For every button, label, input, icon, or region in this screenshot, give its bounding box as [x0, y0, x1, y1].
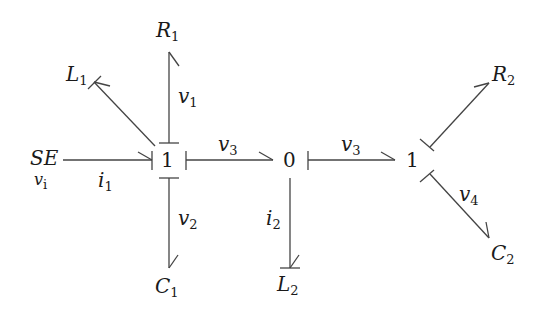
bonds-layer — [0, 0, 551, 320]
v1-main: v — [178, 84, 189, 108]
bond-j1a-to-r1 — [159, 52, 179, 143]
r1-main: R — [156, 18, 171, 42]
bond-label-v1: v1 — [178, 86, 198, 109]
bond-se-to-j1a — [63, 151, 152, 170]
element-c1: C1 — [155, 276, 179, 299]
bond-j0-to-l2 — [280, 178, 300, 268]
bond-j1b-to-c2 — [420, 170, 489, 238]
r2-main: R — [492, 62, 507, 86]
l2-sub: 2 — [290, 283, 298, 298]
element-l1: L1 — [66, 64, 88, 87]
v3a-sub: 3 — [229, 143, 237, 158]
bond-label-v2: v2 — [178, 208, 198, 231]
bond-j1a-to-c1 — [159, 178, 179, 268]
element-se: SE — [30, 148, 58, 168]
bond-label-i1: i1 — [98, 170, 113, 193]
c1-main: C — [155, 274, 170, 298]
v4-sub: 4 — [470, 193, 478, 208]
se-label: SE — [30, 146, 58, 170]
bond-label-v3-left: v3 — [218, 134, 238, 157]
r1-sub: 1 — [171, 29, 179, 44]
l1-main: L — [66, 62, 79, 86]
c2-sub: 2 — [506, 252, 514, 267]
v1-sub: 1 — [189, 95, 197, 110]
l2-main: L — [277, 272, 290, 296]
bond-label-v3-right: v3 — [341, 134, 361, 157]
junction-0: 0 — [283, 150, 296, 170]
i2-sub: 2 — [272, 217, 280, 232]
se-subsub-label: i — [43, 177, 47, 192]
element-l2: L2 — [277, 274, 299, 297]
v3a-main: v — [218, 132, 229, 156]
bond-graph-diagram: 1 0 1 SE vi R1 L1 C1 L2 R2 C2 i1 v1 v2 v… — [0, 0, 551, 320]
junction-1-right: 1 — [406, 150, 419, 170]
c1-sub: 1 — [170, 285, 178, 300]
bond-label-i2: i2 — [266, 208, 281, 231]
c2-main: C — [491, 241, 506, 265]
v3b-main: v — [341, 132, 352, 156]
v2-sub: 2 — [189, 217, 197, 232]
v2-main: v — [178, 206, 189, 230]
element-r2: R2 — [492, 64, 515, 87]
i1-sub: 1 — [104, 179, 112, 194]
bond-j1a-to-l1 — [88, 76, 155, 146]
element-se-sub: vi — [34, 172, 47, 191]
element-c2: C2 — [491, 243, 515, 266]
element-r1: R1 — [156, 20, 179, 43]
l1-sub: 1 — [79, 73, 87, 88]
v3b-sub: 3 — [352, 143, 360, 158]
junction-1-left: 1 — [161, 150, 174, 170]
bond-j1b-to-r2 — [420, 83, 489, 151]
se-sub-label: v — [34, 170, 43, 189]
v4-main: v — [459, 182, 470, 206]
bond-label-v4: v4 — [459, 184, 479, 207]
r2-sub: 2 — [507, 73, 515, 88]
